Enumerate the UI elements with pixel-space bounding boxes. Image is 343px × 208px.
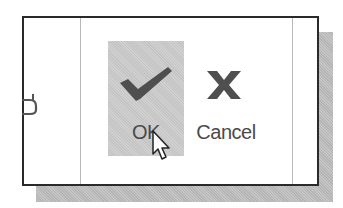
mouse-cursor-icon xyxy=(151,130,173,162)
partial-icon xyxy=(22,92,38,116)
cancel-label: Cancel xyxy=(186,121,266,144)
divider-right xyxy=(292,18,293,184)
x-close-icon xyxy=(205,69,243,101)
divider-left xyxy=(80,18,81,184)
checkmark-icon xyxy=(116,63,176,103)
cancel-button[interactable]: Cancel xyxy=(186,41,266,156)
